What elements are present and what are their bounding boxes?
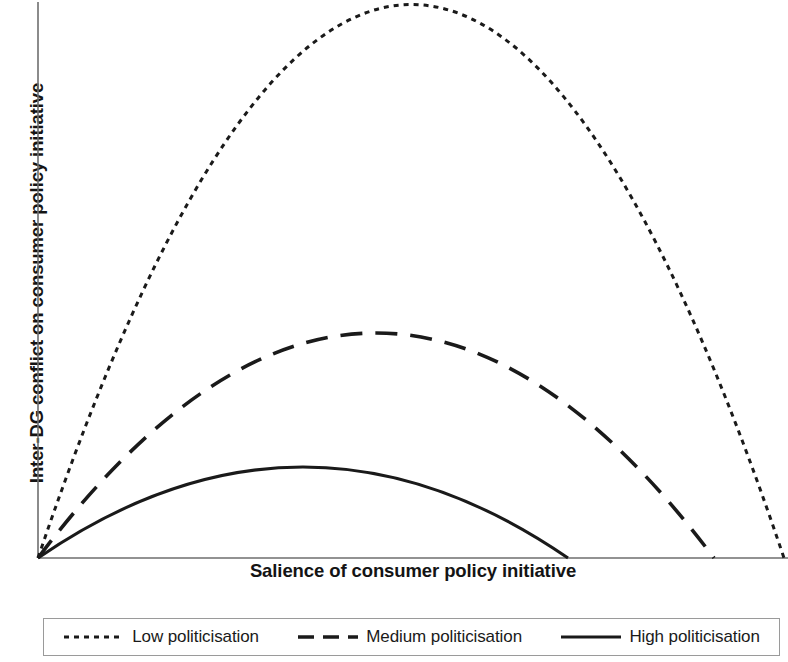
legend-item-high-politicisation: High politicisation — [560, 627, 759, 647]
legend-line-dotted-icon — [63, 631, 125, 643]
legend-item-medium-politicisation: Medium politicisation — [297, 627, 522, 647]
legend-line-solid-icon — [560, 631, 622, 643]
legend-line-dashed-icon — [297, 631, 359, 643]
plot-canvas — [0, 0, 788, 596]
legend-label-high-politicisation: High politicisation — [629, 627, 759, 647]
legend-label-medium-politicisation: Medium politicisation — [366, 627, 522, 647]
curve-medium-politicisation — [38, 333, 714, 558]
figure-container: Inter-DG conflict on consumer policy ini… — [0, 0, 788, 662]
curve-high-politicisation — [38, 467, 568, 558]
legend-label-low-politicisation: Low politicisation — [132, 627, 259, 647]
legend-item-low-politicisation: Low politicisation — [63, 627, 259, 647]
legend: Low politicisation Medium politicisation… — [43, 618, 780, 656]
curve-low-politicisation — [38, 5, 784, 559]
plot-block: Inter-DG conflict on consumer policy ini… — [0, 0, 788, 596]
x-axis-title: Salience of consumer policy initiative — [38, 560, 788, 582]
